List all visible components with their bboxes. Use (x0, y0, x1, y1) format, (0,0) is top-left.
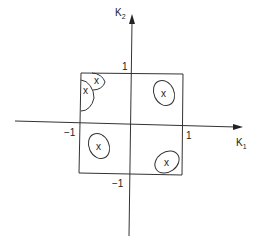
marker-corner-inner: x (83, 85, 88, 96)
k1-axis (15, 121, 236, 127)
k1-arrow-icon (233, 124, 243, 130)
k2-axis-label: K2 (115, 7, 126, 20)
tick-x-neg: −1 (64, 127, 76, 138)
marker-lower-left: x (96, 141, 101, 152)
marker-lower-right: x (164, 157, 169, 168)
k2-arrow-icon (129, 14, 135, 24)
k2-axis (129, 22, 132, 236)
tick-y-neg: −1 (112, 178, 124, 189)
marker-corner-outer: x (94, 75, 99, 86)
tick-x-pos: 1 (186, 130, 192, 141)
k-plane-diagram: x x x x x 1 −1 −1 1 K2 K1 (0, 0, 259, 250)
marker-upper-right: x (161, 88, 166, 99)
tick-y-pos: 1 (122, 61, 128, 72)
k1-axis-label: K1 (236, 137, 247, 150)
